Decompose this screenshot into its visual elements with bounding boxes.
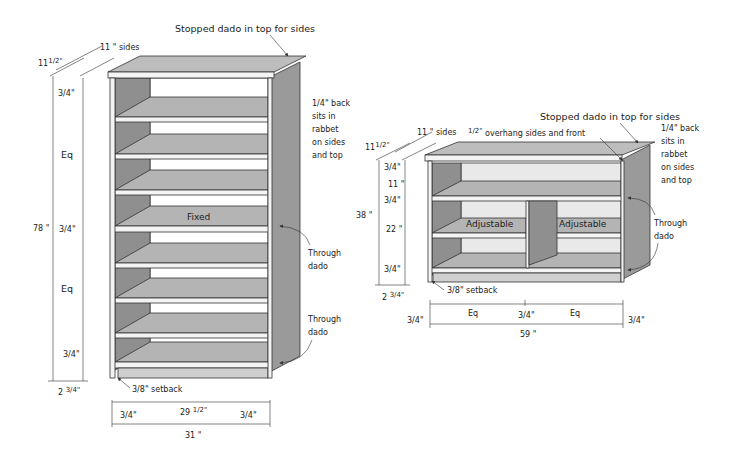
svg-text:3/4": 3/4" [120, 411, 137, 420]
svg-text:31 ": 31 " [185, 431, 201, 440]
tall-stopped-dado-callout: Stopped dado in top for sides [175, 23, 315, 34]
tall-setback-callout: 3/8" setback [132, 385, 183, 394]
svg-text:111/2": 111/2" [365, 141, 390, 152]
svg-text:3/4": 3/4" [518, 311, 535, 320]
through-dado-label-2: Through [307, 315, 341, 324]
low-top-front-edge [425, 155, 622, 161]
svg-text:sits in: sits in [312, 112, 336, 121]
svg-text:111/2": 111/2" [38, 57, 63, 68]
tall-width-dimensions: 3/4" 29 1/2" 3/4" 31 " [112, 400, 270, 440]
low-right-side-panel [621, 145, 650, 280]
svg-text:3/4": 3/4" [628, 316, 645, 325]
fixed-shelf-label: Fixed [187, 212, 210, 222]
svg-text:78 ": 78 " [33, 224, 49, 233]
svg-text:Eq: Eq [468, 309, 478, 318]
svg-text:rabbet: rabbet [661, 150, 687, 159]
svg-text:and top: and top [312, 151, 343, 160]
adjustable-shelf-label-right: Adjustable [559, 219, 607, 229]
tall-right-side-edge [268, 78, 272, 378]
tall-stopped-dado-leader [270, 35, 288, 56]
low-stopped-dado-callout: Stopped dado in top for sides [540, 111, 680, 122]
low-fixed-shelf-edge [430, 196, 622, 201]
svg-text:on sides: on sides [312, 138, 345, 147]
tall-toe-kick [118, 368, 268, 378]
low-toe-kick [433, 273, 621, 282]
low-top-panel [425, 142, 655, 155]
svg-text:1/4" back: 1/4" back [312, 99, 350, 108]
svg-text:1/4" back: 1/4" back [661, 124, 699, 133]
svg-text:3/4": 3/4" [384, 265, 401, 274]
svg-text:11 " sides: 11 " sides [417, 128, 457, 137]
svg-text:38 ": 38 " [356, 211, 372, 220]
svg-text:3/4": 3/4" [59, 225, 76, 234]
tall-back-rabbet-callout: 1/4" back sits in rabbet on sides and to… [312, 99, 350, 160]
svg-text:Eq: Eq [61, 283, 73, 294]
tall-left-side-edge [110, 78, 115, 378]
svg-text:rabbet: rabbet [312, 125, 338, 134]
svg-text:dado: dado [654, 232, 674, 241]
low-setback-callout: 3/8" setback [447, 286, 498, 295]
svg-text:29 1/2": 29 1/2" [180, 406, 207, 417]
low-right-side-edge [621, 161, 624, 282]
low-back-rabbet-callout: 1/4" back sits in rabbet on sides and to… [661, 124, 699, 185]
low-width-dimensions: 3/4" Eq 3/4" Eq 3/4" 59 " [407, 300, 645, 339]
svg-text:3/4": 3/4" [63, 350, 80, 359]
svg-text:3/4": 3/4" [384, 196, 401, 205]
svg-text:22 ": 22 " [386, 225, 402, 234]
svg-text:2 3/4": 2 3/4" [382, 291, 404, 302]
svg-text:11 ": 11 " [388, 180, 404, 189]
low-bottom-shelf-edge [430, 268, 622, 273]
low-left-side-edge [428, 161, 432, 282]
low-center-divider [526, 201, 529, 268]
through-dado-label-1: Through [307, 249, 341, 258]
tall-top-front-edge [108, 72, 274, 78]
low-through-dado-label: Through [653, 219, 687, 228]
svg-text:and top: and top [661, 176, 692, 185]
overhang-callout: 1/2" overhang sides and front [468, 127, 585, 138]
svg-text:3/4": 3/4" [407, 316, 424, 325]
adjustable-shelf-label-left: Adjustable [466, 219, 514, 229]
tall-top-panel [108, 56, 306, 72]
svg-text:dado: dado [308, 262, 328, 271]
svg-text:3/4": 3/4" [58, 89, 75, 98]
svg-text:Eq: Eq [61, 149, 73, 160]
low-bookcase: Adjustable Adjustable Stopped dado in to… [356, 111, 699, 339]
tall-right-side-panel [268, 62, 300, 373]
svg-text:3/4": 3/4" [384, 163, 401, 172]
svg-text:on sides: on sides [661, 163, 694, 172]
bookcase-diagram: Fixed Stopped dado in top for sides 1/4"… [0, 0, 737, 463]
svg-text:3/4": 3/4" [240, 411, 257, 420]
svg-text:sits in: sits in [661, 137, 685, 146]
svg-text:dado: dado [308, 328, 328, 337]
tall-bookcase: Fixed Stopped dado in top for sides 1/4"… [33, 23, 350, 440]
svg-text:Eq: Eq [570, 309, 580, 318]
svg-text:11 " sides: 11 " sides [100, 43, 140, 52]
svg-text:59 ": 59 " [520, 330, 536, 339]
svg-text:2 3/4": 2 3/4" [58, 386, 80, 397]
